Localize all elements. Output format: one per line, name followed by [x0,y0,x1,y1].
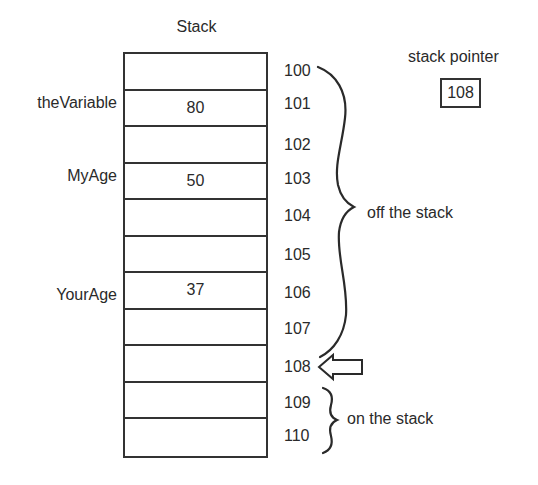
diagram-overlay [0,0,538,485]
on-stack-brace-icon [323,388,337,453]
off-stack-brace-icon [318,67,354,357]
stack-pointer-arrow-icon [319,355,362,379]
